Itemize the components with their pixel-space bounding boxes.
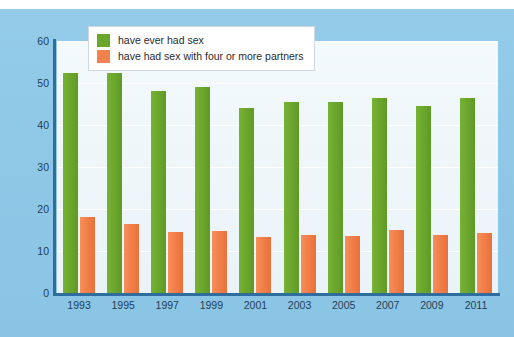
x-axis-tick-labels: 1993199519971999200120032005200720092011 [57,299,498,319]
bar-orange [345,236,360,293]
bar-orange [301,235,316,293]
bar-group [278,41,322,293]
y-axis-tick-label: 10 [3,245,49,257]
bar-orange [389,230,404,293]
bar-group [101,41,145,293]
y-axis-line [53,39,56,295]
bar-orange [477,233,492,293]
bar-group [454,41,498,293]
bar-orange [256,237,271,293]
y-axis-tick-label: 60 [3,35,49,47]
plot-area [57,41,498,293]
chart-page: 0102030405060 19931995199719992001200320… [0,0,514,337]
chart-card: 0102030405060 19931995199719992001200320… [0,9,514,337]
legend-item-label: have had sex with four or more partners [118,50,304,62]
x-axis-tick-label: 2011 [465,299,488,311]
legend-item: have had sex with four or more partners [97,48,304,64]
bar-green [239,108,254,293]
bar-green [328,102,343,293]
chart-legend: have ever had sex have had sex with four… [88,26,315,71]
bar-green [151,91,166,293]
bar-green [416,106,431,293]
bar-group [233,41,277,293]
bar-green [195,87,210,293]
orange-swatch-icon [97,50,110,63]
y-axis-tick-label: 50 [3,77,49,89]
x-axis-tick-label: 2007 [376,299,399,311]
bar-orange [433,235,448,293]
bar-orange [168,232,183,293]
y-axis-tick-labels: 0102030405060 [0,9,49,337]
bar-orange [80,217,95,293]
bar-series-container [57,41,498,293]
bar-group [189,41,233,293]
y-axis-tick-label: 20 [3,203,49,215]
bar-orange [124,224,139,293]
bar-group [145,41,189,293]
x-axis-line [53,293,500,296]
bar-green [372,98,387,293]
cut-off-caption [0,0,514,9]
bar-green [63,73,78,294]
bar-group [57,41,101,293]
x-axis-tick-label: 1997 [156,299,179,311]
bar-green [460,98,475,293]
green-swatch-icon [97,34,110,47]
y-axis-tick-label: 30 [3,161,49,173]
y-axis-tick-label: 0 [3,287,49,299]
legend-item-label: have ever had sex [118,34,204,46]
bar-orange [212,231,227,293]
bar-group [366,41,410,293]
y-axis-tick-label: 40 [3,119,49,131]
x-axis-tick-label: 2005 [332,299,355,311]
bar-group [322,41,366,293]
x-axis-tick-label: 2009 [420,299,443,311]
x-axis-tick-label: 1995 [111,299,134,311]
bar-green [107,73,122,294]
bar-green [284,102,299,293]
legend-item: have ever had sex [97,32,304,48]
bar-group [410,41,454,293]
x-axis-tick-label: 1999 [200,299,223,311]
x-axis-tick-label: 2001 [244,299,267,311]
x-axis-tick-label: 1993 [67,299,90,311]
x-axis-tick-label: 2003 [288,299,311,311]
